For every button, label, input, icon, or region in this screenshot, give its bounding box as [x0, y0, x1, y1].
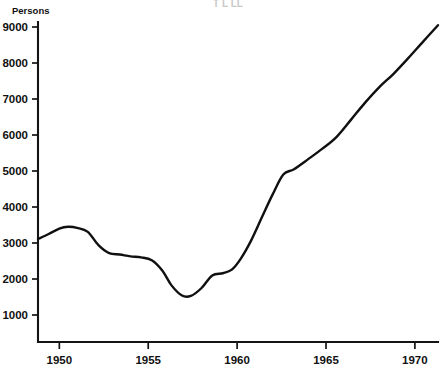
- y-tick-label: 8000: [2, 57, 28, 69]
- x-tick-label: 1965: [313, 354, 339, 366]
- y-tick-label: 1000: [2, 309, 28, 321]
- chart-axes: [38, 22, 438, 342]
- persons-line-chart: T L LL Persons 1000200030004000500060007…: [0, 0, 440, 375]
- y-tick-label: 2000: [2, 273, 28, 285]
- clipped-chart-title: T L LL: [213, 0, 243, 9]
- x-tick-label: 1950: [47, 354, 73, 366]
- x-tick-label: 1960: [224, 354, 250, 366]
- x-tick-label: 1970: [402, 354, 428, 366]
- y-tick-label: 7000: [2, 93, 28, 105]
- y-tick-label: 6000: [2, 129, 28, 141]
- y-axis-title: Persons: [12, 5, 50, 16]
- y-axis-ticks: 100020003000400050006000700080009000: [2, 21, 38, 321]
- y-tick-label: 5000: [2, 165, 28, 177]
- y-tick-label: 4000: [2, 201, 28, 213]
- data-series-line-persons: [38, 25, 438, 297]
- y-tick-label: 9000: [2, 21, 28, 33]
- x-tick-label: 1955: [135, 354, 161, 366]
- y-tick-label: 3000: [2, 237, 28, 249]
- x-axis-ticks: 19501955196019651970: [47, 342, 428, 366]
- chart-container: T L LL Persons 1000200030004000500060007…: [0, 0, 440, 375]
